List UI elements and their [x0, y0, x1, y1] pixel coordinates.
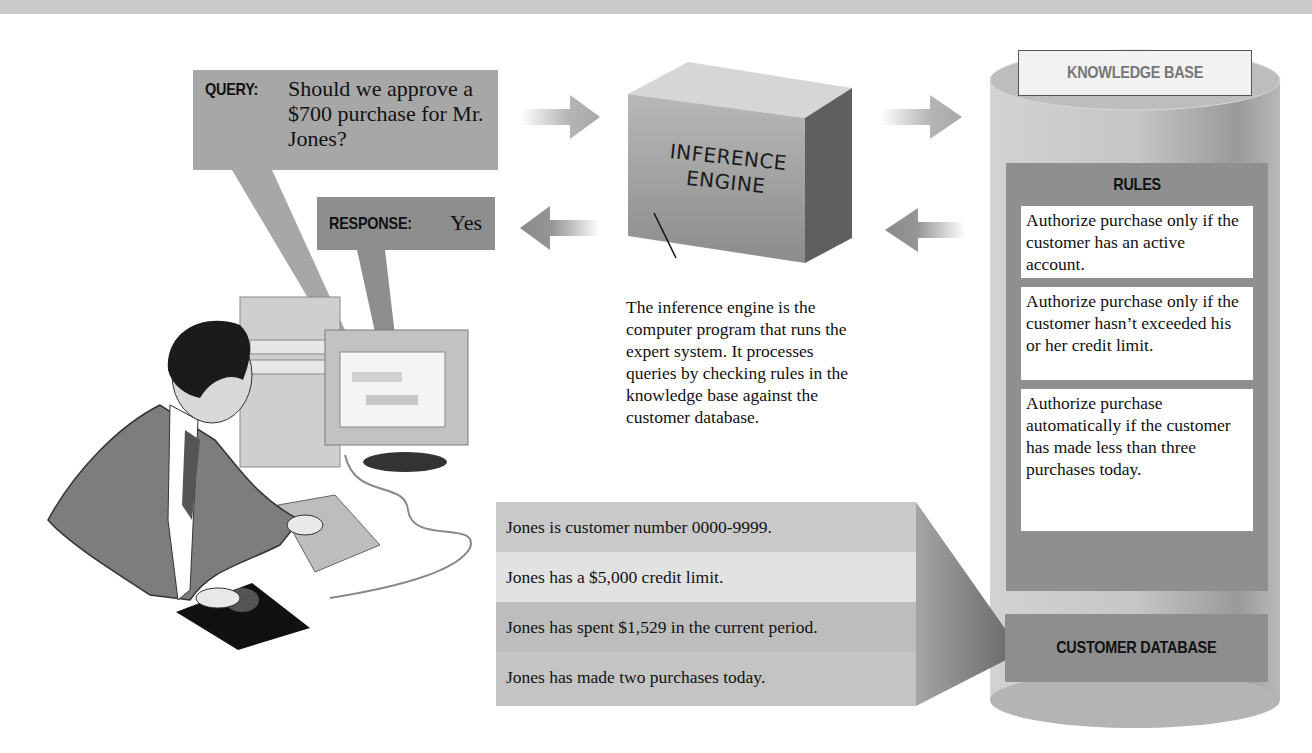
response-text: Yes [450, 210, 482, 236]
arrow-right-icon [880, 95, 962, 139]
rule-card: Authorize purchase automatically if the … [1021, 389, 1253, 531]
arrow-left-icon [885, 208, 965, 252]
rule-card: Authorize purchase only if the customer … [1021, 287, 1253, 380]
monitor-stand [363, 452, 447, 472]
response-label: RESPONSE: [329, 214, 412, 234]
arrow-left-icon [520, 206, 600, 250]
inference-engine-caption: The inference engine is the computer pro… [626, 296, 866, 428]
query-text: Should we approve a $700 purchase for Mr… [288, 76, 493, 151]
response-balloon: RESPONSE: Yes [317, 197, 495, 250]
customer-database-panel: CUSTOMER DATABASE [1005, 614, 1268, 682]
person-left-hand [196, 588, 240, 608]
query-label: QUERY: [205, 80, 258, 100]
knowledge-base-title: KNOWLEDGE BASE [1018, 50, 1252, 96]
fact-row: Jones has made two purchases today. [496, 652, 916, 706]
rules-title: RULES [1113, 175, 1161, 195]
monitor-screen [340, 352, 445, 427]
fact-row: Jones has spent $1,529 in the current pe… [496, 602, 916, 652]
fact-row: Jones has a $5,000 credit limit. [496, 552, 916, 602]
customer-database-title: CUSTOMER DATABASE [1056, 638, 1216, 658]
arrow-right-icon [520, 95, 600, 139]
rule-card: Authorize purchase only if the customer … [1021, 206, 1253, 278]
fact-row: Jones is customer number 0000-9999. [496, 502, 916, 552]
engine-box-side [805, 88, 852, 263]
query-balloon: QUERY: Should we approve a $700 purchase… [193, 70, 498, 170]
person-right-hand [287, 515, 323, 535]
rules-panel: RULES Authorize purchase only if the cus… [1006, 163, 1268, 591]
keyboard [278, 495, 380, 572]
